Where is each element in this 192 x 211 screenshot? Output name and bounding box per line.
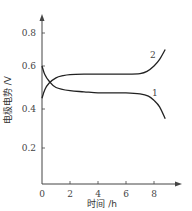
- y-tick-label: 0.8: [22, 28, 37, 38]
- y-tick-label: 0.6: [22, 61, 37, 71]
- curve-2: [42, 50, 165, 99]
- x-tick-label: 8: [151, 189, 157, 199]
- x-axis-title: 时间 /h: [87, 198, 117, 209]
- x-axis-arrow-icon: [175, 182, 182, 187]
- electrode-potential-chart: 024680.20.40.60.8时间 /h电极电势 /V12: [0, 0, 192, 211]
- x-tick-label: 0: [39, 189, 45, 199]
- curve-2-label: 2: [150, 50, 156, 60]
- y-tick-label: 0.4: [22, 104, 37, 114]
- chart-root: 024680.20.40.60.8时间 /h电极电势 /V12: [0, 0, 192, 211]
- x-tick-label: 6: [123, 189, 129, 199]
- x-tick-label: 2: [67, 189, 73, 199]
- y-axis-arrow-icon: [40, 14, 45, 21]
- y-axis-title: 电极电势 /V: [2, 75, 13, 124]
- y-tick-label: 0.2: [22, 143, 36, 153]
- curve-1-label: 1: [152, 88, 158, 98]
- x-tick-label: 4: [95, 189, 101, 199]
